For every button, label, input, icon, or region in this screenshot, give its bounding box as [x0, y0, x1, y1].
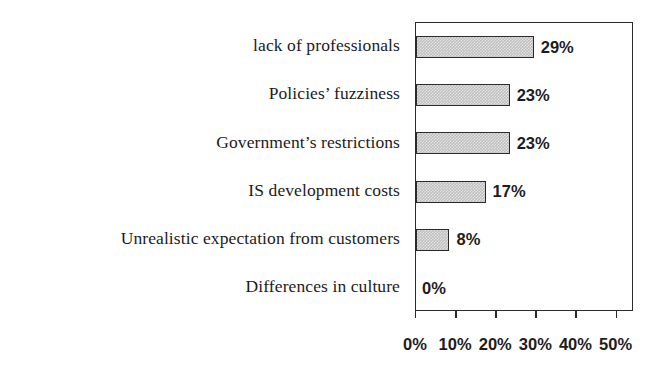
category-label-row: lack of professionals	[10, 22, 408, 70]
horizontal-bar-chart: lack of professionals Policies’ fuzzines…	[0, 0, 646, 367]
bar-row: 23%	[416, 119, 632, 167]
bar	[416, 132, 510, 154]
category-label: Policies’ fuzziness	[269, 85, 408, 103]
category-axis-labels: lack of professionals Policies’ fuzzines…	[10, 22, 408, 311]
bar-value-label: 29%	[541, 39, 574, 56]
category-label: Government’s restrictions	[216, 134, 408, 152]
bar-value-label: 23%	[517, 135, 550, 152]
x-axis-tick-label: 30%	[519, 336, 552, 353]
x-axis-tick-mark	[455, 311, 456, 318]
category-label: Unrealistic expectation from customers	[121, 230, 408, 248]
category-label-row: Policies’ fuzziness	[10, 70, 408, 118]
plot-inner: 29% 23% 23% 17% 8% 0%	[416, 23, 632, 310]
x-axis-tick-label: 10%	[439, 336, 472, 353]
category-label-row: IS development costs	[10, 167, 408, 215]
bar-value-label: 0%	[422, 280, 446, 297]
x-axis-tick-mark	[535, 311, 536, 318]
bar	[416, 36, 534, 58]
bar	[416, 181, 486, 203]
x-axis-tick-marks	[415, 311, 633, 319]
bar-value-label: 17%	[493, 183, 526, 200]
bar-row: 0%	[416, 264, 632, 312]
category-label: Differences in culture	[246, 278, 408, 296]
x-axis-tick-label: 40%	[559, 336, 592, 353]
x-axis-tick-label: 0%	[403, 336, 427, 353]
category-label-row: Differences in culture	[10, 263, 408, 311]
bar-value-label: 8%	[456, 231, 480, 248]
bar-row: 23%	[416, 71, 632, 119]
x-axis-tick-label: 20%	[479, 336, 512, 353]
bar	[416, 229, 449, 251]
bar-row: 29%	[416, 23, 632, 71]
category-label-row: Government’s restrictions	[10, 118, 408, 166]
x-axis-tick-mark	[495, 311, 496, 318]
plot-area-frame: 29% 23% 23% 17% 8% 0%	[415, 22, 633, 311]
x-axis-tick-mark	[575, 311, 576, 318]
bar	[416, 84, 510, 106]
x-axis-tick-label: 50%	[599, 336, 632, 353]
category-label: IS development costs	[248, 182, 408, 200]
bar-value-label: 23%	[517, 87, 550, 104]
category-label: lack of professionals	[253, 37, 408, 55]
x-axis-tick-mark	[616, 311, 617, 318]
category-label-row: Unrealistic expectation from customers	[10, 215, 408, 263]
x-axis-tick-mark	[415, 311, 416, 318]
bar-row: 17%	[416, 168, 632, 216]
bar-row: 8%	[416, 216, 632, 264]
x-axis-tick-labels: 0%10%20%30%40%50%	[403, 336, 646, 360]
